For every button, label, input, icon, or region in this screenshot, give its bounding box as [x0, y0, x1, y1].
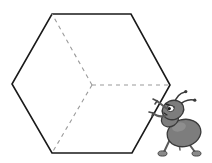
cube-interior-dashed-lines	[52, 14, 170, 153]
figure-canvas	[0, 0, 212, 163]
hand-lower	[149, 112, 153, 116]
foot-front	[158, 151, 167, 156]
foot-rear	[192, 151, 201, 156]
antenna-right-tip	[193, 99, 196, 102]
cartoon-ant	[149, 90, 204, 156]
dash-center-to-top-left	[52, 14, 92, 85]
antenna-left-tip	[184, 90, 187, 93]
dash-center-to-bottom-left	[52, 85, 92, 153]
diagram-svg	[0, 0, 212, 163]
hand-upper	[153, 99, 157, 104]
pupil	[168, 107, 171, 110]
